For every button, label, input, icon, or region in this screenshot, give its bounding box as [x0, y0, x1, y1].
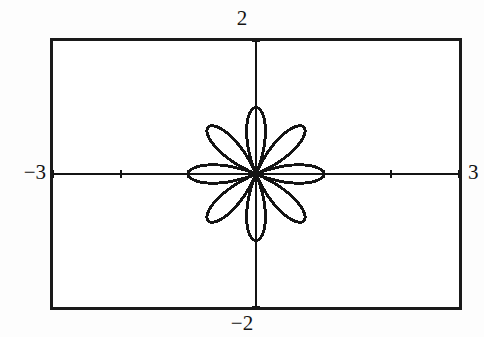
polar-rose-plot: [53, 41, 459, 307]
x-axis-max-label: 3: [468, 162, 484, 183]
screenshot-root: 2 −2 −3 3: [0, 0, 484, 337]
calculator-screen-frame: [50, 38, 462, 310]
y-axis-min-label: −2: [0, 313, 484, 334]
x-axis-min-label: −3: [8, 162, 46, 183]
y-axis-max-label: 2: [0, 8, 484, 29]
